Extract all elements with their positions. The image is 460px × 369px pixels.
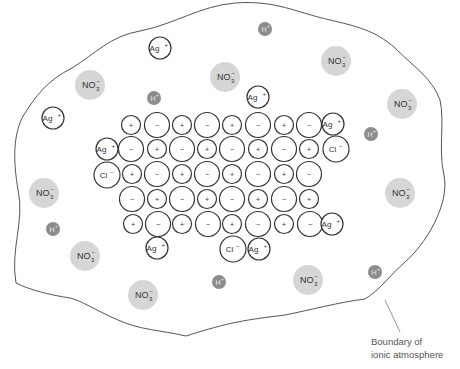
svg-text:+: + <box>263 91 267 97</box>
lattice-cation: + <box>249 190 268 209</box>
svg-text:−: − <box>236 243 240 249</box>
nitrate-ion: NO3− <box>293 265 323 295</box>
hydrogen-ion: H+ <box>258 22 272 36</box>
svg-text:−: − <box>110 169 114 175</box>
svg-text:+: + <box>165 42 169 48</box>
svg-text:Cl: Cl <box>329 145 337 154</box>
svg-text:−: − <box>129 146 133 153</box>
svg-text:+: + <box>130 171 134 178</box>
lattice-cation: + <box>198 140 217 159</box>
hydrogen-ion: H+ <box>212 275 226 289</box>
lattice-anion: − <box>119 137 144 162</box>
lattice-cation: + <box>123 165 142 184</box>
nitrate-ion: NO3− <box>70 241 100 271</box>
svg-text:−: − <box>308 221 312 228</box>
svg-text:+: + <box>155 146 159 153</box>
svg-text:Ag: Ag <box>147 244 157 253</box>
lattice-anion: − <box>120 187 145 212</box>
lattice-cation: + <box>300 190 319 209</box>
lattice-cation: + <box>300 140 319 159</box>
svg-text:−: − <box>51 186 55 192</box>
caption-line-1: Boundary of <box>371 335 443 348</box>
svg-text:Ag: Ag <box>322 220 332 229</box>
adsorbed-ion-silver: Ag+ <box>247 86 269 108</box>
svg-text:+: + <box>373 128 376 134</box>
svg-text:+: + <box>156 92 159 98</box>
hydrogen-ion: H+ <box>46 222 60 236</box>
svg-text:+: + <box>256 196 260 203</box>
boundary-caption: Boundary of ionic atmosphere <box>371 335 443 361</box>
nitrate-ion: NO3− <box>128 280 158 310</box>
lattice-cation: + <box>122 116 141 135</box>
svg-text:−: − <box>256 122 260 129</box>
nitrate-ion: NO3− <box>29 178 59 208</box>
svg-text:+: + <box>155 196 159 203</box>
lattice-anion: − <box>272 137 297 162</box>
lattice-anion: − <box>195 113 220 138</box>
svg-text:Ag: Ag <box>323 120 333 129</box>
solution-ion-silver: Ag+ <box>42 107 64 129</box>
hydrogen-ion: H+ <box>147 91 161 105</box>
solution-ion-silver: Ag+ <box>149 37 171 59</box>
lattice-cation: + <box>275 215 294 234</box>
svg-text:Ag: Ag <box>248 93 258 102</box>
svg-text:−: − <box>282 146 286 153</box>
svg-text:+: + <box>230 171 234 178</box>
hydrogen-ion: H+ <box>364 127 378 141</box>
nitrate-ion: NO3− <box>210 62 240 92</box>
svg-text:−: − <box>343 54 347 60</box>
lattice-cation: + <box>198 190 217 209</box>
svg-text:−: − <box>205 171 209 178</box>
svg-text:+: + <box>180 221 184 228</box>
svg-text:H: H <box>50 226 55 233</box>
adsorbed-ion-silver: Ag+ <box>321 213 343 235</box>
svg-text:H: H <box>262 26 267 33</box>
svg-text:Ag: Ag <box>150 44 160 53</box>
svg-text:−: − <box>180 196 184 203</box>
svg-text:−: − <box>206 221 210 228</box>
svg-text:+: + <box>307 146 311 153</box>
lattice-anion: − <box>220 187 245 212</box>
svg-text:NO: NO <box>328 56 342 66</box>
lattice-anion: − <box>297 113 322 138</box>
lattice-cation: + <box>223 215 242 234</box>
silver-chloride-lattice: +−+−+−+−−+−+−+−++−+−+−+−−+−+−+−++−+−+−+− <box>119 113 323 237</box>
svg-text:NO: NO <box>394 99 408 109</box>
lattice-cation: + <box>223 116 242 135</box>
lattice-anion: − <box>272 187 297 212</box>
svg-text:−: − <box>205 122 209 129</box>
nitrate-ion: NO3− <box>321 46 351 76</box>
svg-text:−: − <box>307 171 311 178</box>
svg-text:NO: NO <box>392 188 406 198</box>
svg-text:−: − <box>155 122 159 129</box>
svg-text:+: + <box>55 223 58 229</box>
svg-text:−: − <box>256 171 260 178</box>
svg-text:−: − <box>180 146 184 153</box>
svg-text:+: + <box>58 112 62 118</box>
adsorbed-ion-chloride: Cl− <box>220 236 246 262</box>
svg-text:H: H <box>151 95 156 102</box>
svg-text:NO: NO <box>217 72 231 82</box>
svg-text:Cl: Cl <box>100 171 108 180</box>
svg-text:Ag: Ag <box>43 114 53 123</box>
adsorbed-ion-chloride: Cl− <box>94 162 120 188</box>
svg-text:NO: NO <box>77 251 91 261</box>
lattice-cation: + <box>124 215 143 234</box>
lattice-cation: + <box>223 165 242 184</box>
svg-text:+: + <box>282 122 286 129</box>
svg-text:Cl: Cl <box>226 245 234 254</box>
hydrogen-ion: H+ <box>368 265 382 279</box>
nitrate-ion: NO3− <box>387 89 417 119</box>
adsorbed-ion-silver: Ag+ <box>248 238 270 260</box>
svg-text:−: − <box>409 97 413 103</box>
svg-text:+: + <box>180 122 184 129</box>
svg-text:−: − <box>230 196 234 203</box>
svg-text:+: + <box>180 171 184 178</box>
lattice-cation: + <box>148 190 167 209</box>
svg-text:−: − <box>307 122 311 129</box>
svg-text:+: + <box>307 196 311 203</box>
lattice-anion: − <box>170 187 195 212</box>
lattice-anion: − <box>145 162 170 187</box>
svg-text:+: + <box>205 196 209 203</box>
svg-text:+: + <box>282 171 286 178</box>
